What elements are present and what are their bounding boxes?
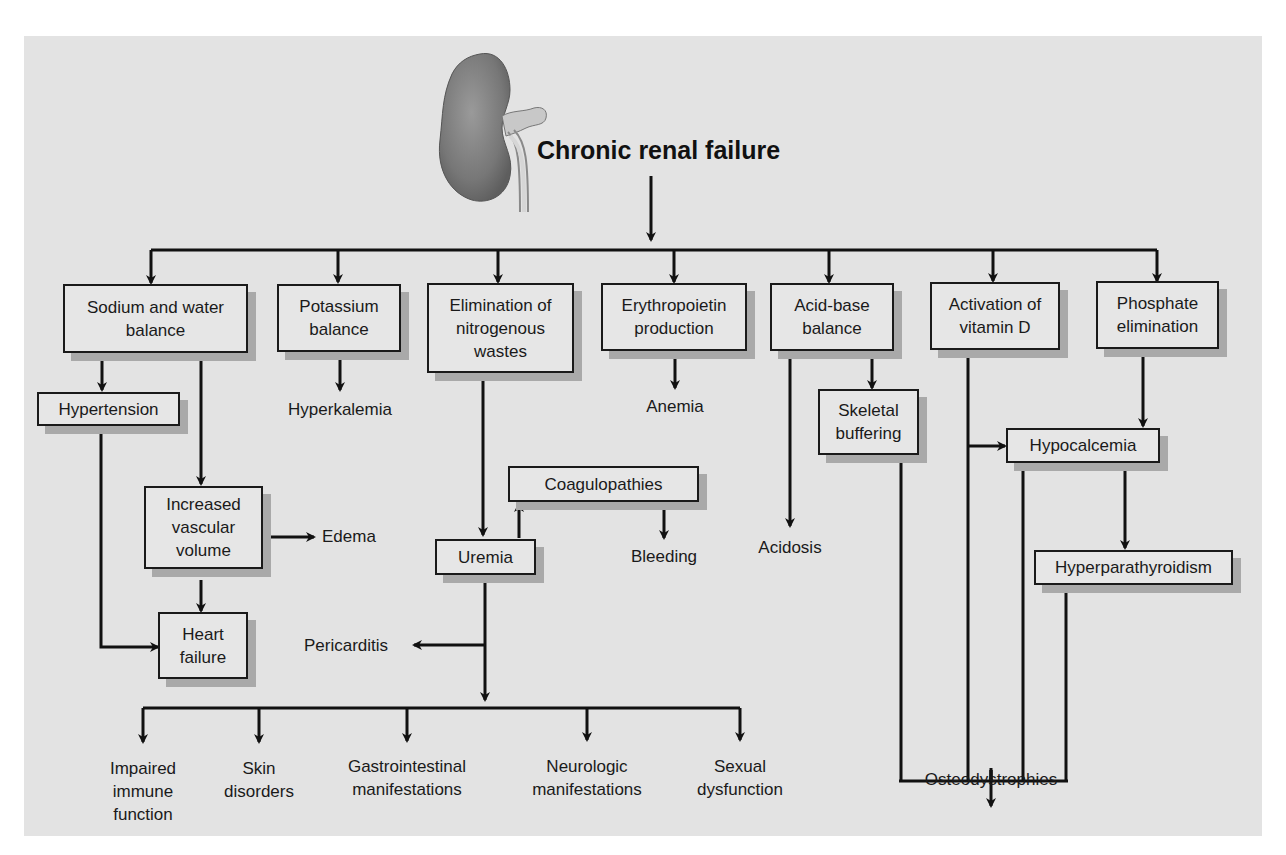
box-label: Coagulopathies bbox=[544, 473, 662, 496]
label-line: Neurologic bbox=[502, 755, 672, 778]
label-gastrointestinal-manifestations: Gastrointestinal manifestations bbox=[322, 755, 492, 801]
box-label: Erythropoietin bbox=[622, 294, 727, 317]
box-label: Hypocalcemia bbox=[1030, 434, 1137, 457]
box-sodium-water-balance: Sodium and waterbalance bbox=[63, 284, 248, 353]
box-label: wastes bbox=[449, 340, 551, 363]
box-hyperparathyroidism: Hyperparathyroidism bbox=[1034, 550, 1233, 585]
box-label: Potassium bbox=[299, 295, 378, 318]
box-acid-base-balance: Acid-basebalance bbox=[770, 283, 894, 351]
box-label: Skeletal bbox=[836, 399, 902, 422]
label-line: immune bbox=[83, 780, 203, 803]
box-coagulopathies: Coagulopathies bbox=[508, 466, 699, 502]
box-erythropoietin-production: Erythropoietinproduction bbox=[601, 283, 747, 351]
label-impaired-immune-function: Impaired immune function bbox=[83, 757, 203, 826]
box-label: vitamin D bbox=[949, 316, 1042, 339]
label-neurologic-manifestations: Neurologic manifestations bbox=[502, 755, 672, 801]
box-label: production bbox=[622, 317, 727, 340]
box-label: vascular bbox=[166, 516, 241, 539]
box-elimination-nitrogenous-wastes: Elimination ofnitrogenouswastes bbox=[427, 283, 574, 373]
box-hypertension: Hypertension bbox=[37, 392, 180, 426]
box-label: Phosphate bbox=[1117, 292, 1198, 315]
box-label: failure bbox=[180, 646, 226, 669]
box-skeletal-buffering: Skeletalbuffering bbox=[818, 389, 919, 455]
box-label: Hypertension bbox=[58, 398, 158, 421]
label-sexual-dysfunction: Sexual dysfunction bbox=[680, 755, 800, 801]
box-label: balance bbox=[87, 319, 224, 342]
label-anemia: Anemia bbox=[625, 395, 725, 418]
box-potassium-balance: Potassiumbalance bbox=[277, 284, 401, 352]
box-label: Uremia bbox=[458, 546, 513, 569]
label-line: manifestations bbox=[502, 778, 672, 801]
label-line: function bbox=[83, 803, 203, 826]
label-edema: Edema bbox=[322, 525, 376, 548]
box-uremia: Uremia bbox=[435, 539, 536, 575]
label-line: Impaired bbox=[83, 757, 203, 780]
box-phosphate-elimination: Phosphateelimination bbox=[1096, 281, 1219, 349]
label-line: dysfunction bbox=[680, 778, 800, 801]
label-line: disorders bbox=[199, 780, 319, 803]
box-label: volume bbox=[166, 539, 241, 562]
label-skin-disorders: Skin disorders bbox=[199, 757, 319, 803]
box-label: balance bbox=[299, 318, 378, 341]
box-increased-vascular-volume: Increasedvascularvolume bbox=[144, 486, 263, 569]
label-line: manifestations bbox=[322, 778, 492, 801]
box-label: Acid-base bbox=[794, 294, 870, 317]
box-label: Heart bbox=[180, 623, 226, 646]
label-line: Sexual bbox=[680, 755, 800, 778]
box-label: Sodium and water bbox=[87, 296, 224, 319]
box-hypocalcemia: Hypocalcemia bbox=[1006, 428, 1160, 463]
box-label: Hyperparathyroidism bbox=[1055, 556, 1212, 579]
label-line: Gastrointestinal bbox=[322, 755, 492, 778]
label-osteodystrophies: Osteodystrophies bbox=[901, 768, 1081, 791]
box-label: nitrogenous bbox=[449, 317, 551, 340]
label-bleeding: Bleeding bbox=[614, 545, 714, 568]
box-label: buffering bbox=[836, 422, 902, 445]
box-label: Increased bbox=[166, 493, 241, 516]
box-heart-failure: Heartfailure bbox=[158, 612, 248, 679]
box-activation-vitamin-d: Activation ofvitamin D bbox=[930, 282, 1060, 350]
label-pericarditis: Pericarditis bbox=[304, 634, 388, 657]
box-label: balance bbox=[794, 317, 870, 340]
label-hyperkalemia: Hyperkalemia bbox=[278, 398, 402, 421]
box-label: Elimination of bbox=[449, 294, 551, 317]
label-line: Skin bbox=[199, 757, 319, 780]
box-label: Activation of bbox=[949, 293, 1042, 316]
label-acidosis: Acidosis bbox=[740, 536, 840, 559]
box-label: elimination bbox=[1117, 315, 1198, 338]
